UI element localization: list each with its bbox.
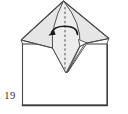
step-number-label: 19 bbox=[3, 89, 17, 103]
origami-step-diagram: 19 bbox=[0, 0, 128, 114]
origami-figure bbox=[0, 0, 128, 114]
